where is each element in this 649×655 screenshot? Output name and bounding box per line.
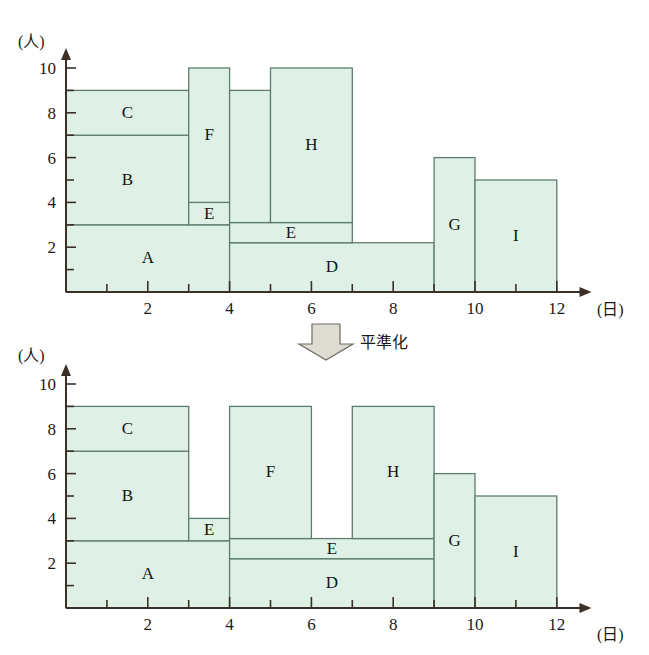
y-axis-arrowhead xyxy=(61,48,71,60)
x-axis-tick-label: 8 xyxy=(389,615,398,634)
x-axis-tick-label: 12 xyxy=(548,615,565,634)
activity-block-label: I xyxy=(513,542,519,561)
chart-after-leveling-svg: ABCEDEFHGI 24681024681012 (人) (日) xyxy=(0,316,649,655)
activity-block-label: E xyxy=(327,539,337,558)
block-group-before: ABCEFDEHGI xyxy=(66,68,557,292)
y-axis-tick-label: 8 xyxy=(48,104,57,123)
activity-block-label: B xyxy=(122,486,133,505)
activity-block-label: G xyxy=(448,215,460,234)
block-group-after: ABCEDEFHGI xyxy=(66,406,557,608)
activity-block-label: C xyxy=(122,103,133,122)
chart-before-leveling-svg: ABCEFDEHGI 24681024681012 (人) (日) xyxy=(0,0,649,330)
x-axis-tick-label: 4 xyxy=(225,615,234,634)
activity-block-label: G xyxy=(448,531,460,550)
y-axis-tick-label: 2 xyxy=(48,238,57,257)
x-axis-tick-label: 6 xyxy=(307,615,316,634)
x-axis-arrowhead xyxy=(580,603,592,613)
activity-block-label: E xyxy=(204,520,214,539)
y-axis-caption: (人) xyxy=(18,347,45,365)
activity-block-label: H xyxy=(387,462,399,481)
activity-block-label: I xyxy=(513,226,519,245)
activity-block-label: D xyxy=(326,573,338,592)
y-axis-tick-label: 4 xyxy=(48,509,57,528)
x-axis-tick-label: 2 xyxy=(144,615,153,634)
activity-block-label: F xyxy=(266,462,275,481)
activity-block-label: H xyxy=(305,135,317,154)
y-axis-tick-label: 4 xyxy=(48,193,57,212)
activity-block-label: E xyxy=(286,223,296,242)
activity-block-label: F xyxy=(204,125,213,144)
activity-block xyxy=(230,90,271,222)
y-axis-caption: (人) xyxy=(18,33,45,51)
x-axis-tick-label: 10 xyxy=(467,615,484,634)
activity-block-label: A xyxy=(142,248,155,267)
activity-block-label: D xyxy=(326,257,338,276)
activity-block-label: E xyxy=(204,204,214,223)
x-axis-caption: (日) xyxy=(597,626,624,644)
y-axis-tick-label: 6 xyxy=(48,149,57,168)
y-axis-tick-label: 10 xyxy=(39,375,56,394)
activity-block-label: C xyxy=(122,419,133,438)
y-axis-tick-label: 10 xyxy=(39,59,56,78)
chart-before-leveling: ABCEFDEHGI 24681024681012 (人) (日) xyxy=(0,0,649,330)
chart-after-leveling: ABCEDEFHGI 24681024681012 (人) (日) xyxy=(0,316,649,655)
activity-block-label: A xyxy=(142,564,155,583)
y-axis-tick-label: 8 xyxy=(48,420,57,439)
activity-block-label: B xyxy=(122,170,133,189)
y-axis-tick-label: 6 xyxy=(48,465,57,484)
y-axis-arrowhead xyxy=(61,364,71,376)
y-axis-tick-label: 2 xyxy=(48,554,57,573)
x-axis-arrowhead xyxy=(580,287,592,297)
